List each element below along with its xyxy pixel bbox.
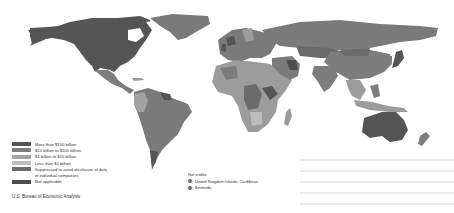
dot-marker-icon xyxy=(188,186,192,190)
legend-swatch xyxy=(12,155,31,159)
source-credit: U.S. Bureau of Economic Analysis xyxy=(12,194,80,199)
legend-swatch xyxy=(12,161,31,165)
not-visible-title: Not visible xyxy=(188,172,258,177)
not-visible-legend: Not visible United Kingdom Islands, Cari… xyxy=(188,172,258,190)
not-visible-label: Bermuda xyxy=(195,185,211,190)
legend-swatch xyxy=(12,148,31,152)
not-visible-item: United Kingdom Islands, Caribbean xyxy=(188,179,258,184)
region-new-zealand xyxy=(418,132,430,146)
legend-swatch xyxy=(12,167,31,171)
region-india xyxy=(312,66,338,92)
dot-marker-icon xyxy=(188,179,192,183)
legend-label: $1 billion to $10 billion xyxy=(35,154,76,159)
map-legend: More than $100 billion $10 billion to $1… xyxy=(12,141,107,185)
region-madagascar xyxy=(284,108,292,126)
legend-swatch xyxy=(12,180,31,184)
region-russia xyxy=(262,20,438,50)
region-mexico xyxy=(94,70,134,94)
not-visible-item: Bermuda xyxy=(188,185,258,190)
region-australia xyxy=(362,112,408,142)
legend-label: Not applicable xyxy=(35,179,62,184)
legend-label: Suppressed to avoid disclosure of data xyxy=(35,167,107,172)
legend-label: $10 billion to $100 billion xyxy=(35,148,81,153)
legend-swatch xyxy=(12,142,31,146)
legend-label: More than $100 billion xyxy=(35,142,76,147)
not-visible-label: United Kingdom Islands, Caribbean xyxy=(195,179,258,184)
legend-item-not-applicable: Not applicable xyxy=(12,178,107,184)
region-southeast-asia xyxy=(346,80,366,100)
legend-label: Less than $1 billion xyxy=(35,161,71,166)
region-japan xyxy=(392,50,404,68)
region-north-america xyxy=(30,16,152,72)
